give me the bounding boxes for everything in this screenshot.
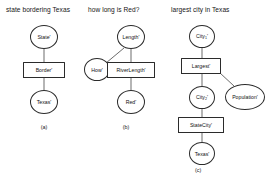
- node-border-label: Border': [36, 67, 53, 73]
- panel-a-graph: State' Border' Texas': [0, 0, 88, 176]
- panel-c-graph: City1' Largest' Population' City2' State…: [168, 0, 266, 176]
- node-city1-label: City1': [196, 33, 208, 40]
- panel-c: largest city in Texas City1' Largest' Po…: [168, 0, 266, 176]
- panel-b-graph: Length' How' RiverLength' Red': [84, 0, 168, 176]
- node-state-label: State': [37, 34, 50, 40]
- node-length-label: Length': [123, 34, 140, 40]
- edge-length-how: [106, 48, 124, 63]
- node-statecity-label: StateCity': [190, 122, 212, 128]
- node-border[interactable]: Border': [23, 62, 65, 78]
- panel-b-caption: (b): [84, 124, 168, 130]
- node-riverlength-label: RiverLength': [116, 67, 145, 73]
- node-statecity[interactable]: StateCity': [178, 117, 224, 133]
- node-how-label: How': [91, 66, 102, 72]
- node-texas[interactable]: Texas': [30, 90, 58, 114]
- node-length[interactable]: Length': [117, 25, 145, 49]
- node-city2[interactable]: City2': [189, 86, 215, 109]
- node-texas-label: Texas': [37, 99, 52, 105]
- node-red[interactable]: Red': [117, 90, 145, 114]
- node-city2-label: City2': [196, 94, 208, 101]
- node-largest-label: Largest': [192, 63, 210, 69]
- semantic-parse-figure: state bordering Texas State' Border' Tex…: [0, 0, 266, 176]
- panel-c-caption: (c): [168, 167, 266, 173]
- edge-largest-population: [220, 73, 234, 86]
- node-population[interactable]: Population': [225, 84, 265, 110]
- node-largest[interactable]: Largest': [181, 58, 221, 74]
- panel-a-caption: (a): [0, 124, 88, 130]
- node-city1[interactable]: City1': [189, 25, 215, 48]
- node-texas-label: Texas': [195, 150, 210, 156]
- node-riverlength[interactable]: RiverLength': [107, 62, 155, 78]
- node-texas[interactable]: Texas': [189, 142, 215, 165]
- panel-a: state bordering Texas State' Border' Tex…: [0, 0, 88, 176]
- node-state[interactable]: State': [30, 25, 58, 49]
- panel-b: how long is Red? Length' How' RiverLengt…: [84, 0, 168, 176]
- node-population-label: Population': [232, 94, 258, 100]
- node-red-label: Red': [126, 99, 137, 105]
